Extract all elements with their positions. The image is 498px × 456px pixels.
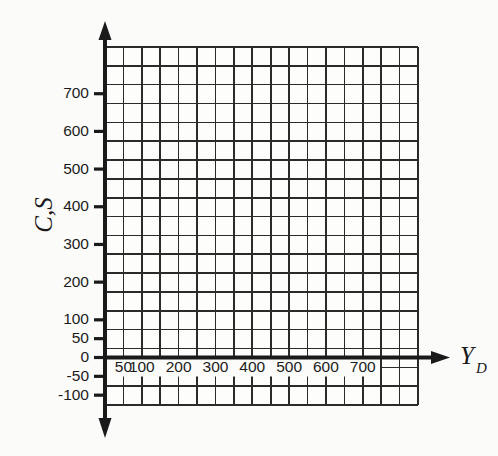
chart-figure: 700600500400300200100500-50-100 50100200…: [0, 0, 498, 456]
y-tick-label: -50: [67, 367, 90, 384]
y-axis-title: C,S: [30, 197, 57, 233]
y-tick-label: 0: [80, 348, 89, 365]
x-tick-label: 100: [129, 358, 155, 375]
chart-canvas: 700600500400300200100500-50-100 50100200…: [0, 0, 498, 456]
y-axis-arrow-down-icon: [99, 418, 112, 438]
y-tick-label: 700: [63, 84, 89, 101]
y-tick-label: 50: [72, 329, 90, 346]
y-tick-label: 100: [63, 310, 89, 327]
y-tick-label: 400: [63, 197, 89, 214]
y-tick-label: 500: [63, 160, 89, 177]
x-tick-label: 200: [166, 358, 192, 375]
x-tick-label: 600: [313, 358, 339, 375]
y-tick-label: 600: [63, 122, 89, 139]
plot-area-background: [105, 47, 418, 405]
x-tick-label: 300: [203, 358, 229, 375]
x-axis-arrow-right-icon: [431, 351, 450, 364]
y-axis-ticks: 700600500400300200100500-50-100: [58, 84, 106, 402]
y-tick-label: 200: [63, 273, 89, 290]
x-tick-label: 500: [276, 358, 302, 375]
y-tick-label: -100: [58, 386, 89, 403]
x-tick-label: 400: [239, 358, 265, 375]
x-axis-title-subscript: D: [475, 360, 487, 376]
x-tick-label: 700: [350, 358, 376, 375]
y-tick-label: 300: [63, 235, 89, 252]
y-axis-arrow-up-icon: [99, 21, 112, 40]
x-axis-ticks: 50100200300400500600700: [115, 358, 376, 375]
x-axis-title-base: Y: [460, 342, 477, 369]
